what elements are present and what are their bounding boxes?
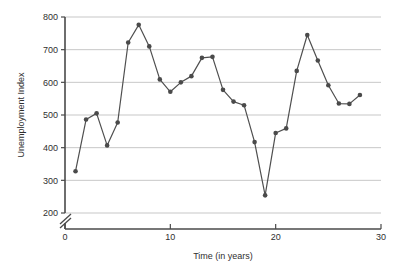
- x-axis-title: Time (in years): [193, 251, 253, 261]
- data-point-marker: [252, 140, 257, 145]
- data-point-marker: [326, 83, 331, 88]
- data-point-marker: [305, 33, 310, 38]
- y-tick-label-400: 400: [43, 143, 58, 153]
- data-point-marker: [73, 169, 78, 174]
- y-tick-label-600: 600: [43, 78, 58, 88]
- data-point-marker: [200, 56, 205, 61]
- y-tick-label-700: 700: [43, 45, 58, 55]
- x-tick-label-10: 10: [165, 232, 175, 242]
- data-point-marker: [115, 120, 120, 125]
- chart-container: 2003004005006007008000102030Time (in yea…: [0, 0, 398, 269]
- data-point-marker: [210, 55, 215, 60]
- data-point-marker: [358, 93, 363, 98]
- data-point-marker: [105, 143, 110, 148]
- data-series-line: [76, 25, 360, 196]
- x-tick-label-0: 0: [62, 232, 67, 242]
- x-tick-label-20: 20: [271, 232, 281, 242]
- data-point-marker: [242, 103, 247, 108]
- data-point-marker: [94, 111, 99, 116]
- data-point-marker: [168, 90, 173, 95]
- y-tick-label-500: 500: [43, 110, 58, 120]
- data-point-marker: [284, 126, 289, 131]
- data-point-marker: [147, 44, 152, 49]
- data-point-marker: [189, 74, 194, 79]
- data-point-marker: [273, 131, 278, 136]
- data-point-marker: [221, 88, 226, 93]
- data-point-marker: [294, 69, 299, 74]
- y-axis-title: Unemployment Index: [16, 72, 26, 158]
- data-point-marker: [126, 40, 131, 45]
- x-tick-label-30: 30: [376, 232, 386, 242]
- data-point-marker: [179, 80, 184, 85]
- data-point-marker: [347, 102, 352, 107]
- data-point-marker: [84, 117, 89, 122]
- line-chart: 2003004005006007008000102030Time (in yea…: [0, 0, 398, 269]
- y-tick-label-800: 800: [43, 12, 58, 22]
- data-point-marker: [231, 99, 236, 104]
- data-point-marker: [263, 193, 268, 198]
- data-point-marker: [136, 23, 141, 28]
- y-tick-label-200: 200: [43, 208, 58, 218]
- data-point-marker: [158, 77, 163, 82]
- y-tick-label-300: 300: [43, 176, 58, 186]
- data-point-marker: [337, 101, 342, 106]
- data-point-marker: [316, 58, 321, 63]
